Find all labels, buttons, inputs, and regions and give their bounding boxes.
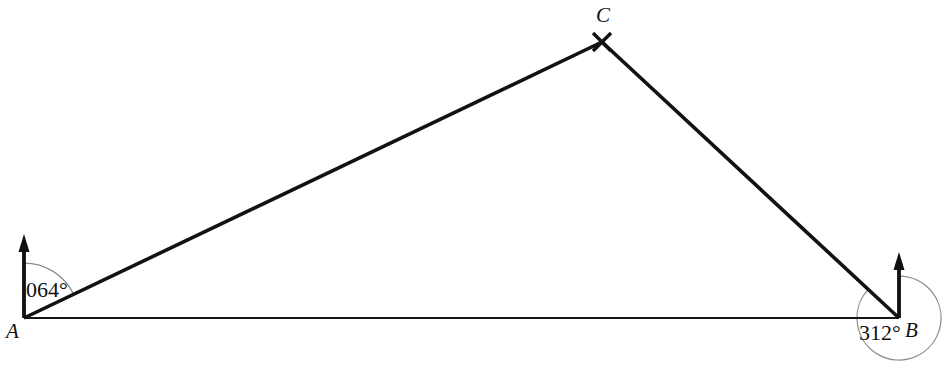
north-arrow-a-head	[19, 234, 30, 252]
bearings-diagram-canvas: A B C 064° 312°	[0, 0, 949, 375]
vertex-label-b: B	[905, 318, 918, 342]
north-arrow-b-head	[894, 252, 905, 270]
angle-label-a: 064°	[26, 277, 68, 302]
cross-marker-c	[593, 33, 611, 51]
north-arrow-a	[19, 234, 30, 318]
vertex-label-a: A	[4, 319, 19, 343]
angle-label-b: 312°	[859, 320, 901, 345]
north-arrow-b	[894, 252, 905, 318]
bearings-diagram-svg: A B C 064° 312°	[0, 0, 949, 375]
vertex-label-c: C	[596, 3, 611, 27]
segment-cb	[602, 42, 899, 318]
segment-ac	[24, 42, 602, 318]
